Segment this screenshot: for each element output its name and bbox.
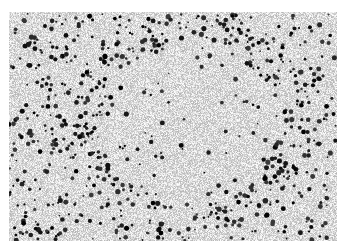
micrograph-image: [9, 12, 337, 241]
micrograph-canvas: [9, 12, 337, 241]
